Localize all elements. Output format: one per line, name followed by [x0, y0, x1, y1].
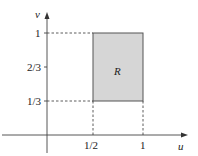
x-tick-label-1: 1 — [140, 139, 146, 151]
y-tick-label-1: 1 — [35, 27, 41, 39]
y-axis-label: v — [35, 8, 40, 20]
diagram-canvas: v u 1 2/3 1/3 1/2 1 R — [0, 0, 198, 156]
y-tick-label-1-3: 1/3 — [27, 95, 42, 107]
x-tick-label-1-2: 1/2 — [84, 139, 98, 151]
x-axis-arrow-icon — [181, 133, 188, 138]
y-tick-label-2-3: 2/3 — [27, 61, 42, 73]
x-axis-label: u — [178, 140, 184, 152]
region-label: R — [113, 65, 121, 77]
y-axis-arrow-icon — [45, 12, 50, 19]
